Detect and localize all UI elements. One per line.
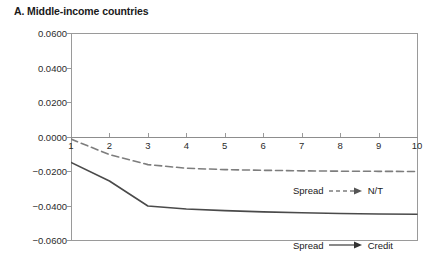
legend-credit-prefix: Spread	[293, 241, 324, 251]
legend-nt-label: N/T	[368, 186, 383, 196]
series-line-n-t	[71, 139, 417, 171]
legend-credit-solid-arrow-icon	[329, 240, 363, 250]
y-axis-tick-label: −0.0400	[32, 200, 67, 211]
legend-credit-label: Credit	[368, 241, 393, 251]
y-axis-tick-label: −0.0200	[32, 166, 67, 177]
y-axis-tick-label: 0.0000	[38, 131, 67, 142]
legend-nt-prefix: Spread	[293, 186, 324, 196]
legend-item-nt: Spread N/T	[293, 186, 383, 196]
plot-area: 0.06000.04000.02000.0000−0.0200−0.0400−0…	[71, 33, 418, 241]
chart-figure: A. Middle-income countries 0.06000.04000…	[0, 0, 442, 267]
y-axis-tick-label: 0.0400	[38, 62, 67, 73]
y-axis-tick-label: 0.0200	[38, 97, 67, 108]
series-lines	[71, 33, 418, 241]
legend-item-credit: Spread Credit	[293, 240, 393, 250]
y-axis-tick-label: 0.0600	[38, 28, 67, 39]
y-axis-tick-label: −0.0600	[32, 235, 67, 246]
chart-title: A. Middle-income countries	[14, 5, 149, 17]
legend-nt-dashed-arrow-icon	[329, 186, 363, 196]
